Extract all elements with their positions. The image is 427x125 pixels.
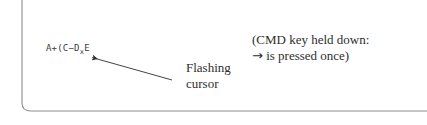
flashing-cursor-label: Flashing cursor: [186, 60, 231, 92]
arrow-line: [92, 58, 172, 81]
note-line-2-text: is pressed once): [263, 48, 349, 63]
note-line-1: (CMD key held down:: [252, 32, 369, 48]
figure-canvas: A+(C−DxE Flashing cursor (CMD key held d…: [0, 0, 427, 125]
callout-line-1: Flashing: [186, 60, 231, 76]
right-arrow-icon: →: [252, 48, 263, 63]
callout-line-2: cursor: [186, 76, 231, 92]
cmd-key-note: (CMD key held down: → is pressed once): [252, 32, 369, 64]
note-line-2: → is pressed once): [252, 48, 369, 64]
